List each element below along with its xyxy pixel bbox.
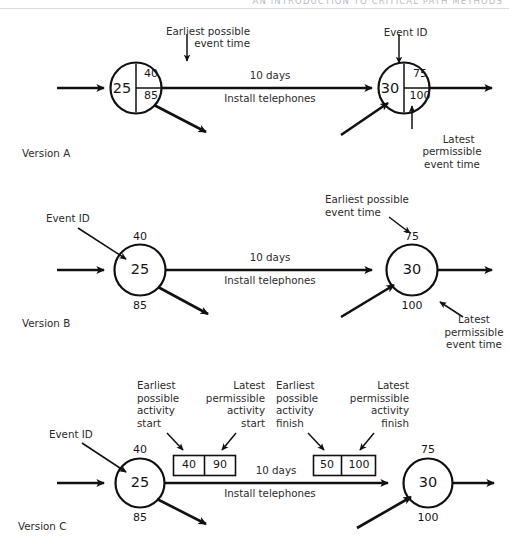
anno-c-earliest-activity-start: Earliest possible activity start	[137, 379, 203, 429]
activity-b-name: Install telephones	[203, 274, 337, 287]
activity-a-name: Install telephones	[203, 92, 337, 105]
node-c-right-latest-time: 100	[413, 512, 443, 524]
node-c-right-event-id: 30	[415, 475, 441, 490]
node-b-left-event-id: 25	[127, 262, 153, 277]
node-a-left-event-id: 25	[109, 81, 135, 96]
activity-a-duration: 10 days	[215, 69, 325, 82]
node-b-right-earliest-time: 75	[400, 231, 424, 243]
anno-a-earliest-line1: Earliest possible event time	[166, 25, 250, 50]
anno-c-earliest-activity-finish: Earliest possible activity finish	[276, 379, 342, 429]
anno-a-latest-event-time: Latest permissible event time	[400, 120, 504, 183]
node-a-left-earliest-time: 40	[139, 68, 163, 80]
node-b-right-latest-time: 100	[397, 300, 427, 312]
activity-b-duration: 10 days	[215, 251, 325, 264]
box-c-start-cell-latest: 90	[207, 459, 233, 471]
anno-a-latest-text: Latest permissible event time	[422, 133, 481, 170]
node-a-right-event-id: 30	[377, 81, 403, 96]
anno-b-earliest-event-time: Earliest possible event time	[325, 193, 435, 218]
activity-c-name: Install telephones	[203, 487, 337, 500]
node-c-left-latest-time: 85	[128, 512, 152, 524]
caption-version-b: Version B	[22, 317, 70, 329]
box-c-finish-cell-earliest: 50	[315, 459, 339, 471]
activity-c-duration: 10 days	[240, 464, 312, 477]
node-c-left-earliest-time: 40	[128, 444, 152, 456]
node-b-left-earliest-time: 40	[128, 231, 152, 243]
node-a-left-latest-time: 85	[139, 90, 163, 102]
caption-version-a: Version A	[22, 147, 70, 159]
anno-c-latest-activity-start: Latest permissible activity start	[199, 379, 265, 429]
anno-b-event-id: Event ID	[46, 212, 136, 225]
box-c-start-cell-earliest: 40	[176, 459, 202, 471]
box-c-finish-cell-latest: 100	[344, 459, 374, 471]
anno-c-event-id: Event ID	[49, 428, 139, 441]
anno-b-latest-event-time: Latest permissible event time	[440, 313, 508, 351]
anno-a-event-id: Event ID	[349, 13, 449, 51]
node-c-right-earliest-time: 75	[416, 444, 440, 456]
node-b-left-latest-time: 85	[128, 300, 152, 312]
anno-a-earliest-event-time: Earliest possible event time	[125, 12, 250, 62]
node-c-left-event-id: 25	[127, 475, 153, 490]
anno-c-latest-activity-finish: Latest permissible activity finish	[341, 379, 409, 429]
node-a-right-latest-time: 100	[405, 90, 435, 102]
caption-version-c: Version C	[18, 520, 66, 532]
node-a-right-earliest-time: 75	[407, 68, 433, 80]
anno-a-event-id-text: Event ID	[384, 26, 428, 38]
document-page: AN INTRODUCTION TO CRITICAL PATH METHODS	[0, 0, 509, 539]
node-b-right-event-id: 30	[399, 262, 425, 277]
